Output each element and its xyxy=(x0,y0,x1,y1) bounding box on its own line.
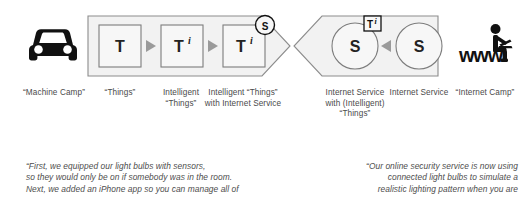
label-things: “Things” xyxy=(85,88,155,99)
node-ti-s-badge-label: S xyxy=(262,21,269,32)
car-icon xyxy=(29,29,77,60)
node-s-ti-badge-label: T xyxy=(367,19,373,30)
quote-left: “First, we equipped our light bulbs with… xyxy=(26,161,306,195)
label-internet-service-with-things: Internet Service with (Intelligent) “Thi… xyxy=(317,88,393,120)
person-head xyxy=(491,24,501,34)
node-ti[interactable]: T i xyxy=(161,25,203,67)
iot-convergence-diagram: T T i T i S S T i xyxy=(0,0,525,148)
node-s-label: S xyxy=(414,38,425,55)
node-t[interactable]: T xyxy=(99,25,141,67)
node-ti-superscript: i xyxy=(188,35,191,46)
quote-right: “Our online security service is now usin… xyxy=(300,161,518,195)
node-t-label: T xyxy=(115,38,125,55)
label-machine-camp: “Machine Camp” xyxy=(14,88,94,99)
node-s-ti-label: S xyxy=(350,38,361,55)
node-s[interactable]: S xyxy=(396,23,442,69)
label-internet-camp: “Internet Camp” xyxy=(452,88,518,99)
diagram-canvas: T T i T i S S T i xyxy=(0,0,525,203)
www-person-laptop-icon: www xyxy=(458,24,513,66)
node-ti-s-superscript: i xyxy=(250,35,253,46)
node-ti-label: T xyxy=(174,38,184,55)
label-internet-service: Internet Service xyxy=(389,88,449,99)
label-intelligent-things-internet-service: Intelligent “Things” with Internet Servi… xyxy=(204,88,282,109)
person-foot xyxy=(501,59,509,63)
node-ti-s-label: T xyxy=(236,38,246,55)
laptop-base xyxy=(498,46,513,48)
